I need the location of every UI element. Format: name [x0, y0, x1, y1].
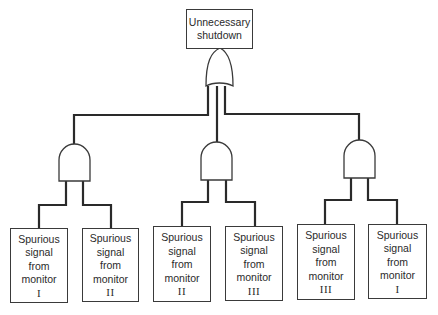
connector-and-right-to-event-5	[325, 178, 351, 224]
event-text: Spurious	[233, 231, 274, 245]
basic-event-box-2: Spurious signal from monitor II	[82, 228, 139, 302]
event-text: monitor	[236, 271, 271, 285]
top-event-box: Unnecessary shutdown	[186, 9, 253, 49]
event-text: Spurious	[305, 229, 346, 243]
event-text: Spurious	[161, 231, 202, 245]
basic-event-box-3: Spurious signal from monitor II	[153, 226, 211, 302]
connector-and-middle-to-event-4	[226, 180, 255, 226]
monitor-number: I	[395, 283, 399, 297]
event-text: from	[100, 259, 121, 273]
event-text: Spurious	[90, 232, 131, 246]
event-text: signal	[312, 243, 339, 257]
connector-and-right-to-event-6	[368, 178, 397, 224]
monitor-number: III	[248, 285, 261, 299]
event-text: Spurious	[18, 233, 59, 247]
event-text: signal	[240, 244, 267, 258]
monitor-number: I	[37, 287, 41, 301]
monitor-number: II	[106, 286, 114, 300]
event-text: Spurious	[377, 229, 418, 243]
event-text: from	[244, 258, 265, 272]
basic-event-box-5: Spurious signal from monitor III	[297, 224, 355, 300]
connector-or-to-and-left	[74, 86, 208, 145]
basic-event-box-1: Spurious signal from monitor I	[10, 228, 68, 303]
or-gate-icon	[206, 48, 233, 86]
event-text: monitor	[21, 273, 56, 287]
monitor-number: III	[320, 283, 333, 297]
event-text: monitor	[93, 273, 128, 287]
event-text: monitor	[164, 272, 199, 286]
top-event-label-line2: shutdown	[197, 29, 242, 42]
event-text: from	[316, 256, 337, 270]
event-text: signal	[168, 245, 195, 259]
and-gate-icon	[201, 142, 232, 180]
and-gate-icon	[59, 144, 90, 181]
event-text: from	[172, 258, 193, 272]
top-event-label-line1: Unnecessary	[189, 16, 250, 29]
basic-event-box-6: Spurious signal from monitor I	[368, 224, 427, 299]
connector-and-left-to-event-2	[83, 181, 111, 228]
event-text: monitor	[308, 270, 343, 284]
event-text: signal	[25, 246, 52, 260]
event-text: monitor	[380, 269, 415, 283]
connector-or-to-and-right	[225, 86, 359, 141]
monitor-number: II	[178, 285, 186, 299]
event-text: from	[387, 256, 408, 270]
event-text: signal	[97, 246, 124, 260]
connector-and-left-to-event-1	[39, 181, 66, 228]
and-gate-icon	[344, 140, 375, 178]
event-text: signal	[384, 242, 411, 256]
basic-event-box-4: Spurious signal from monitor III	[225, 226, 283, 301]
connector-and-middle-to-event-3	[182, 180, 208, 226]
event-text: from	[29, 260, 50, 274]
